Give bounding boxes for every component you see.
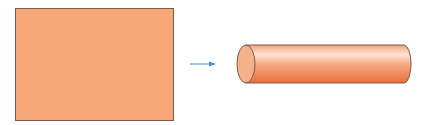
cylinder [237, 45, 411, 83]
sheet-to-cylinder-diagram [0, 0, 427, 125]
arrow-icon [190, 62, 216, 67]
cylinder-end-cap [237, 45, 255, 83]
flat-sheet [16, 9, 174, 121]
